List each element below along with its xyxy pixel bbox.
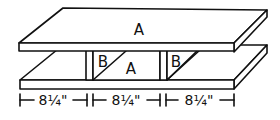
label-brace-right: B — [171, 53, 181, 71]
dimension-middle: 8¼" — [112, 92, 141, 108]
label-top-board: A — [134, 21, 145, 39]
dimension-right: 8¼" — [185, 92, 214, 108]
vertical-board-left — [86, 50, 93, 80]
shelf-diagram: A A B B 8¼" 8¼" 8¼" — [0, 0, 280, 120]
label-brace-left: B — [98, 53, 108, 71]
dimension-left: 8¼" — [39, 92, 68, 108]
diagram-canvas: A A B B 8¼" 8¼" 8¼" — [0, 0, 280, 120]
label-middle-board: A — [126, 60, 137, 78]
vertical-board-right — [160, 50, 167, 80]
